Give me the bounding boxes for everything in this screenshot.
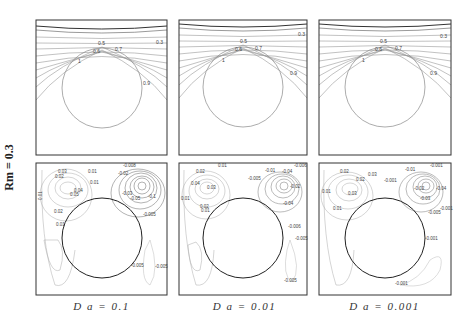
svg-text:0.7: 0.7 bbox=[255, 45, 262, 51]
svg-text:0.3: 0.3 bbox=[156, 39, 163, 45]
svg-text:-0.006: -0.006 bbox=[288, 224, 301, 229]
svg-text:0.6: 0.6 bbox=[235, 46, 242, 52]
isotherm-panel-3: 0.50.60.7 10.30.9 bbox=[319, 20, 451, 155]
svg-text:0.01: 0.01 bbox=[88, 169, 97, 174]
row-label-text: Rm = 0.3 bbox=[2, 144, 17, 191]
svg-text:-0.04: -0.04 bbox=[283, 201, 294, 206]
svg-text:0.02: 0.02 bbox=[340, 169, 349, 174]
svg-text:-0.005: -0.005 bbox=[143, 212, 156, 217]
svg-text:-0.05: -0.05 bbox=[130, 196, 141, 201]
svg-text:0.7: 0.7 bbox=[115, 46, 122, 52]
svg-text:0.02: 0.02 bbox=[54, 209, 63, 214]
svg-text:0.01: 0.01 bbox=[56, 222, 65, 227]
streamline-panel-1: 0.030.020.01 0.01 0.050.040.01 0.020.01 … bbox=[36, 163, 168, 295]
svg-text:-0.008: -0.008 bbox=[123, 163, 136, 168]
svg-text:1: 1 bbox=[362, 57, 365, 63]
svg-text:0.9: 0.9 bbox=[290, 70, 297, 76]
svg-text:-0.006: -0.006 bbox=[294, 163, 307, 168]
isotherm-panel-1: 0.50.60.7 10.30.9 bbox=[36, 20, 167, 155]
svg-text:0.3: 0.3 bbox=[440, 33, 447, 39]
caption-da-0.01: D a = 0.01 bbox=[179, 300, 310, 312]
svg-text:-0.01: -0.01 bbox=[405, 167, 416, 172]
svg-text:0.6: 0.6 bbox=[375, 46, 382, 52]
svg-text:-0.03: -0.03 bbox=[420, 196, 431, 201]
svg-text:-0.02: -0.02 bbox=[414, 186, 425, 191]
svg-text:-0.001: -0.001 bbox=[440, 206, 453, 211]
svg-text:0.03: 0.03 bbox=[348, 191, 357, 196]
svg-text:-0.005: -0.005 bbox=[284, 278, 297, 283]
svg-text:-0.005: -0.005 bbox=[131, 263, 144, 268]
svg-text:0.01: 0.01 bbox=[181, 196, 190, 201]
svg-text:-0.02: -0.02 bbox=[290, 184, 301, 189]
svg-text:0.01: 0.01 bbox=[90, 180, 99, 185]
svg-text:-0.001: -0.001 bbox=[395, 281, 408, 286]
svg-text:0.04: 0.04 bbox=[191, 181, 200, 186]
svg-text:0.03: 0.03 bbox=[368, 172, 377, 177]
svg-text:-0.1: -0.1 bbox=[148, 194, 156, 199]
svg-text:-0.04: -0.04 bbox=[436, 186, 447, 191]
svg-text:0.5: 0.5 bbox=[240, 38, 247, 44]
svg-text:0.7: 0.7 bbox=[395, 45, 402, 51]
svg-text:-0.02: -0.02 bbox=[118, 171, 129, 176]
streamline-panel-2: 0.010.02 0.040.03 0.010.020.01 -0.005-0.… bbox=[179, 163, 308, 295]
caption-da-0.1: D a = 0.1 bbox=[36, 300, 167, 312]
svg-text:0.5: 0.5 bbox=[380, 38, 387, 44]
svg-text:-0.005: -0.005 bbox=[248, 176, 261, 181]
svg-text:1: 1 bbox=[222, 57, 225, 63]
svg-text:0.04: 0.04 bbox=[74, 188, 83, 193]
svg-text:0.01: 0.01 bbox=[38, 191, 43, 200]
figure: 0.50.60.7 10.30.9 0.50.60.7 10.30.9 bbox=[0, 0, 468, 327]
svg-text:-0.01: -0.01 bbox=[265, 168, 276, 173]
svg-text:0.3: 0.3 bbox=[298, 31, 305, 37]
svg-text:1: 1 bbox=[78, 58, 81, 64]
svg-text:0.01: 0.01 bbox=[333, 206, 342, 211]
svg-text:0.01: 0.01 bbox=[201, 208, 210, 213]
svg-text:0.9: 0.9 bbox=[430, 70, 437, 76]
svg-text:0.5: 0.5 bbox=[98, 40, 105, 46]
svg-text:0.02: 0.02 bbox=[55, 174, 64, 179]
row-label: Rm = 0.3 bbox=[4, 140, 34, 200]
isotherm-panel-2: 0.50.60.7 10.30.9 bbox=[179, 20, 307, 155]
svg-text:0.03: 0.03 bbox=[207, 185, 216, 190]
svg-text:0.02: 0.02 bbox=[356, 177, 365, 182]
svg-text:-0.001: -0.001 bbox=[430, 163, 443, 168]
svg-text:-0.001: -0.001 bbox=[425, 236, 438, 241]
svg-text:0.02: 0.02 bbox=[196, 169, 205, 174]
streamline-panel-3: 0.020.03 0.020.03 0.010.01 -0.001-0.01 -… bbox=[319, 163, 453, 295]
svg-text:0.01: 0.01 bbox=[322, 189, 331, 194]
svg-text:-0.04: -0.04 bbox=[282, 169, 293, 174]
caption-da-0.001: D a = 0.001 bbox=[319, 300, 450, 312]
svg-text:-0.005: -0.005 bbox=[155, 264, 168, 269]
svg-text:0.01: 0.01 bbox=[218, 163, 227, 168]
svg-text:0.6: 0.6 bbox=[93, 48, 100, 54]
svg-text:-0.005: -0.005 bbox=[295, 236, 308, 241]
svg-text:-0.001: -0.001 bbox=[384, 178, 397, 183]
svg-text:0.9: 0.9 bbox=[143, 80, 150, 86]
